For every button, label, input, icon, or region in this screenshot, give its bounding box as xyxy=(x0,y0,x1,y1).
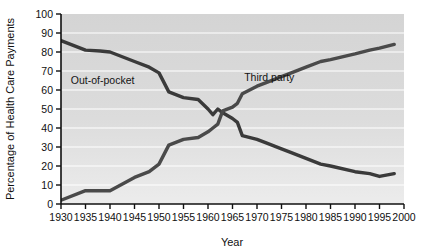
x-tick-label: 1995 xyxy=(368,211,392,223)
x-tick-label: 1960 xyxy=(196,211,220,223)
y-tick-label: 10 xyxy=(41,179,53,191)
y-tick-label: 40 xyxy=(41,122,53,134)
x-tick-label: 1985 xyxy=(319,211,343,223)
series-annotation-label: Out-of-pocket xyxy=(71,74,135,86)
x-axis-title: Year xyxy=(221,236,244,248)
y-tick-label: 30 xyxy=(41,141,53,153)
x-tick-label: 1940 xyxy=(98,211,122,223)
series-annotation-label: Third party xyxy=(244,71,295,83)
y-tick-label: 90 xyxy=(41,27,53,39)
x-tick-label: 1980 xyxy=(294,211,318,223)
x-axis-tick-labels: 1930193519401945195019551960196519701975… xyxy=(49,211,416,223)
y-tick-label: 50 xyxy=(41,103,53,115)
y-tick-label: 80 xyxy=(41,46,53,58)
y-tick-label: 20 xyxy=(41,160,53,172)
y-axis-title: Percentage of Health Care Payments xyxy=(4,17,16,200)
x-tick-label: 1945 xyxy=(123,211,147,223)
x-tick-label: 1955 xyxy=(172,211,196,223)
x-tick-label: 1950 xyxy=(147,211,171,223)
x-tick-label: 1935 xyxy=(74,211,98,223)
line-chart: 0102030405060708090100 19301935194019451… xyxy=(0,0,430,251)
y-tick-label: 60 xyxy=(41,84,53,96)
x-tick-label: 1930 xyxy=(49,211,73,223)
x-tick-label: 1975 xyxy=(270,211,294,223)
y-axis-tick-labels: 0102030405060708090100 xyxy=(35,8,53,210)
x-tick-label: 1970 xyxy=(245,211,269,223)
chart-figure: 0102030405060708090100 19301935194019451… xyxy=(0,0,430,251)
y-tick-label: 0 xyxy=(47,198,53,210)
x-tick-label: 1965 xyxy=(221,211,245,223)
y-tick-label: 100 xyxy=(35,8,53,20)
x-tick-label: 1990 xyxy=(343,211,367,223)
x-tick-label: 2000 xyxy=(392,211,416,223)
y-tick-label: 70 xyxy=(41,65,53,77)
